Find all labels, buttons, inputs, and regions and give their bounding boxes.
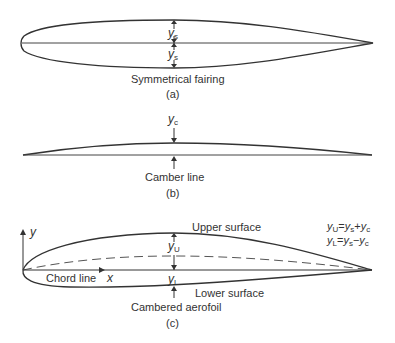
camber-curve — [23, 143, 372, 155]
fairing-outline — [21, 20, 373, 68]
label-ys-lower: ys — [168, 48, 178, 62]
aerofoil-diagram: ys ys Symmetrical fairing (a) yc Camber … — [0, 0, 395, 343]
equation-yU: yU=ys+yc — [327, 221, 370, 234]
caption-camber-line: Camber line — [145, 172, 204, 183]
caption-cambered-aerofoil: Cambered aerofoil — [131, 302, 222, 313]
label-yL: yL — [168, 273, 178, 287]
caption-symmetrical-fairing: Symmetrical fairing — [131, 74, 225, 85]
label-ys-upper: ys — [168, 27, 178, 41]
label-x-axis: x — [107, 272, 113, 284]
panel-b-camber — [23, 128, 372, 169]
tag-b: (b) — [166, 188, 179, 199]
label-y-axis: y — [30, 226, 36, 238]
panel-a-fairing — [21, 20, 373, 68]
label-lower-surface: Lower surface — [195, 288, 264, 299]
label-chord-line: Chord line — [46, 273, 96, 284]
equation-yL: yL=ys−yc — [327, 235, 369, 248]
tag-c: (c) — [166, 318, 179, 329]
label-yU: yU — [168, 240, 180, 254]
label-yc: yc — [168, 113, 178, 127]
label-upper-surface: Upper surface — [192, 222, 261, 233]
tag-a: (a) — [166, 89, 179, 100]
mean-camber-line — [23, 256, 372, 270]
